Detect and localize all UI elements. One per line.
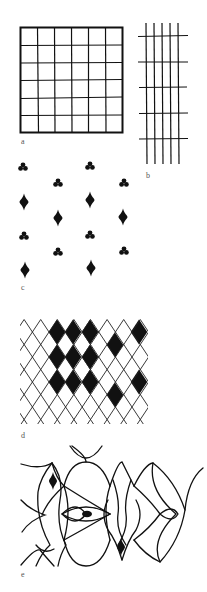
panel-a-square-grid [21, 28, 123, 133]
panel-b-open-grid [138, 23, 188, 164]
panel-label-e: e [21, 571, 25, 579]
panel-e-ogee-pattern [21, 446, 203, 566]
panel-label-a: a [21, 138, 25, 146]
panel-label-d: d [21, 432, 25, 440]
panel-label-c: c [21, 284, 25, 292]
panel-c-motif-repeat [18, 161, 129, 278]
panel-d-diamond-lattice [0, 320, 207, 440]
ellipse-motif-center [82, 511, 92, 517]
panel-label-b: b [146, 172, 150, 180]
pattern-figure [0, 0, 207, 592]
